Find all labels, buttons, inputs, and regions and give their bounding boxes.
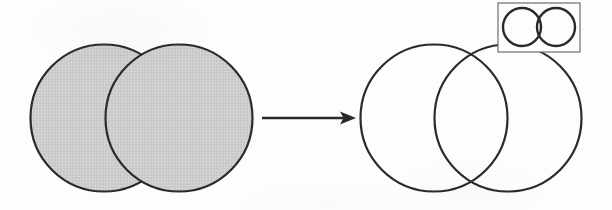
inset-frame	[498, 3, 580, 52]
shaded-right-circle	[106, 45, 253, 192]
shaded-circles-group	[31, 45, 253, 192]
figure-canvas: Two shaded overlapping circles transform…	[0, 0, 612, 210]
inset-detail-box	[498, 3, 580, 52]
figure-illustration	[0, 0, 612, 210]
